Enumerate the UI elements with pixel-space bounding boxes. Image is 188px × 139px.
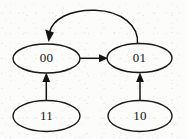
state-node-00[interactable]: 00 [13,44,80,73]
diagram-canvas: 00 01 11 10 [0,0,188,139]
edge-10-to-01-arrowhead [136,73,144,82]
state-node-11[interactable]: 11 [13,101,80,132]
edge-01-to-00 [45,10,137,44]
state-transition-diagram: 00 01 11 10 [0,0,188,139]
edge-10-to-01 [136,73,144,101]
edge-01-to-00-arrowhead [45,30,54,42]
state-node-00-label: 00 [40,50,54,65]
edge-00-to-01 [80,54,108,62]
state-node-01-label: 01 [133,50,147,65]
state-node-10-label: 10 [133,108,147,123]
state-node-01[interactable]: 01 [107,44,172,73]
edge-11-to-00 [42,73,50,101]
edge-11-to-00-arrowhead [42,73,50,82]
state-node-11-label: 11 [40,108,53,123]
edge-01-to-00-path [50,10,138,44]
state-node-10[interactable]: 10 [108,101,172,132]
